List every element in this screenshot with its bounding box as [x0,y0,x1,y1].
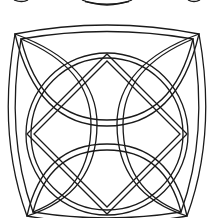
outer-ring-outer [26,53,188,215]
top-lens-inner [21,32,193,121]
celtic-knot-drawing [0,0,214,218]
diamond-inner [34,61,180,207]
top-partial-arc [14,0,200,5]
celtic-knot [8,25,206,218]
outer-ring-inner [31,58,183,210]
diamond-outer [27,54,187,214]
top-lens-outer [15,25,199,126]
